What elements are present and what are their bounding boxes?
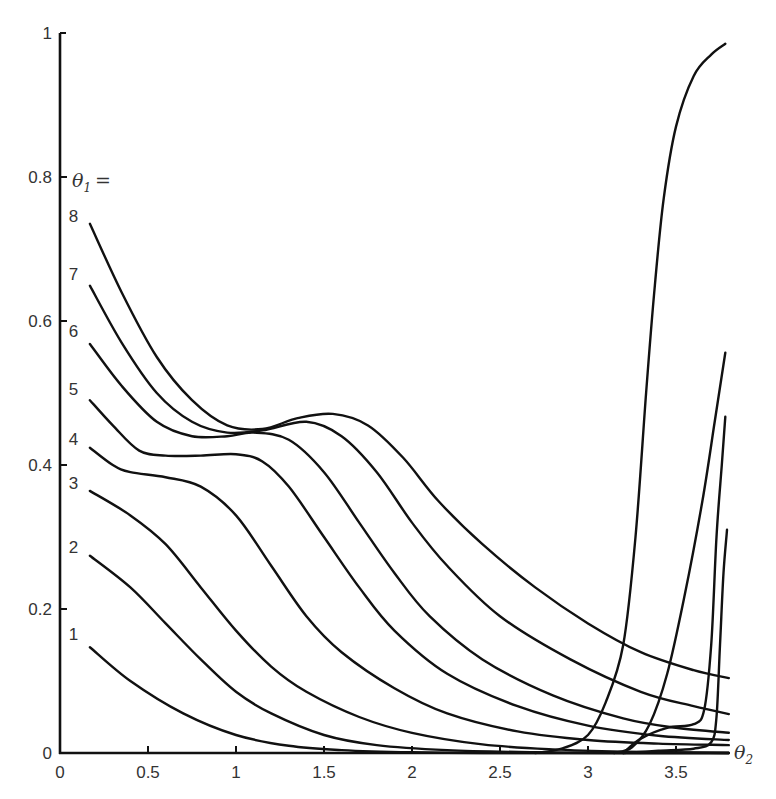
x-tick-label: 3: [583, 763, 592, 782]
y-tick-label: 0.8: [28, 168, 52, 187]
curve-label-3: 3: [69, 474, 78, 493]
curve-label-6: 6: [69, 322, 78, 341]
y-tick-label: 0.4: [28, 456, 52, 475]
curve-6: [90, 344, 729, 733]
curve-4: [90, 448, 729, 745]
plot-area: 00.511.522.533.500.20.40.60.81 12345678 …: [28, 24, 753, 782]
y-tick-label: 1: [43, 24, 52, 43]
y-tick-label: 0: [43, 744, 52, 763]
line-chart: 00.511.522.533.500.20.40.60.81 12345678 …: [0, 0, 776, 799]
curve-group: [90, 44, 729, 753]
y-tick-label: 0.2: [28, 600, 52, 619]
x-tick-label: 2.5: [488, 763, 512, 782]
x-tick-label: 2: [407, 763, 416, 782]
curve-label-8: 8: [69, 207, 78, 226]
curve-label-5: 5: [69, 380, 78, 399]
x-tick-label: 3.5: [664, 763, 688, 782]
curve-label-2: 2: [69, 538, 78, 557]
x-tick-label: 0.5: [136, 763, 160, 782]
x-tick-label: 1: [231, 763, 240, 782]
curve-2: [90, 556, 729, 753]
legend-title: θ1=: [72, 169, 111, 195]
y-tick-label: 0.6: [28, 312, 52, 331]
curve-label-1: 1: [69, 625, 78, 644]
curve-label-7: 7: [69, 265, 78, 284]
curve-label-4: 4: [69, 430, 78, 449]
curve-8: [90, 224, 729, 678]
x-axis-title: θ2: [734, 741, 753, 767]
curve-labels: 12345678: [69, 207, 78, 644]
x-tick-label: 1.5: [312, 763, 336, 782]
curve-1: [90, 647, 729, 753]
x-tick-label: 0: [55, 763, 64, 782]
curve-rise-b: [614, 353, 725, 753]
